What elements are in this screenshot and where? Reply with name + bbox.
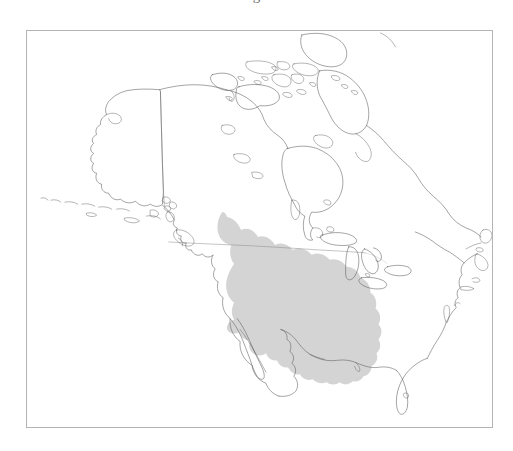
figure-caption-partial: g: [0, 0, 513, 4]
ungava-bay: [356, 133, 372, 161]
st-lawrence-river: [415, 232, 464, 263]
long-island: [461, 286, 474, 290]
coastlines-group: [41, 33, 492, 414]
range-overlay-group: [217, 212, 381, 384]
newfoundland: [480, 229, 492, 243]
prince-edward-island: [476, 248, 483, 252]
lake-winnipeg: [291, 200, 300, 220]
lake-nipigon: [327, 227, 334, 232]
alexander-archipelago: [162, 197, 176, 211]
hudson-bay: [282, 146, 343, 240]
lake-superior: [320, 233, 356, 246]
alaska-coast: [91, 89, 164, 206]
great-bear-lake: [221, 125, 235, 135]
greenland-edge: [380, 33, 395, 47]
cape-cod: [472, 278, 480, 283]
gulf-of-st-lawrence: [466, 243, 481, 249]
arctic-archipelago: [210, 33, 368, 148]
figure-root: g: [0, 0, 513, 451]
political-borders-group: [160, 91, 387, 264]
us-canada-border-east: [366, 253, 388, 264]
species-range-polygon: [217, 212, 381, 384]
lake-ontario: [384, 265, 411, 275]
atlantic-seaboard: [427, 254, 477, 358]
north-america-map: [27, 31, 492, 427]
lake-okeechobee: [403, 393, 408, 398]
lake-athabasca: [252, 172, 263, 179]
chesapeake-bay: [444, 305, 450, 322]
arctic-mainland-coast: [226, 90, 288, 149]
james-bay: [313, 228, 323, 238]
florida-peninsula: [396, 358, 427, 414]
aleutian-islands: [41, 198, 160, 223]
map-frame: [26, 30, 493, 428]
labrador-coast: [367, 126, 482, 237]
lake-st-clair: [366, 274, 370, 278]
great-slave-lake: [233, 154, 250, 164]
georgian-bay: [374, 248, 382, 262]
belcher-islands: [324, 200, 331, 205]
alaska-north-slope: [159, 85, 226, 90]
caption-overflow-clip: g: [0, 0, 513, 12]
seward-peninsula: [107, 113, 122, 124]
nova-scotia: [475, 254, 488, 271]
